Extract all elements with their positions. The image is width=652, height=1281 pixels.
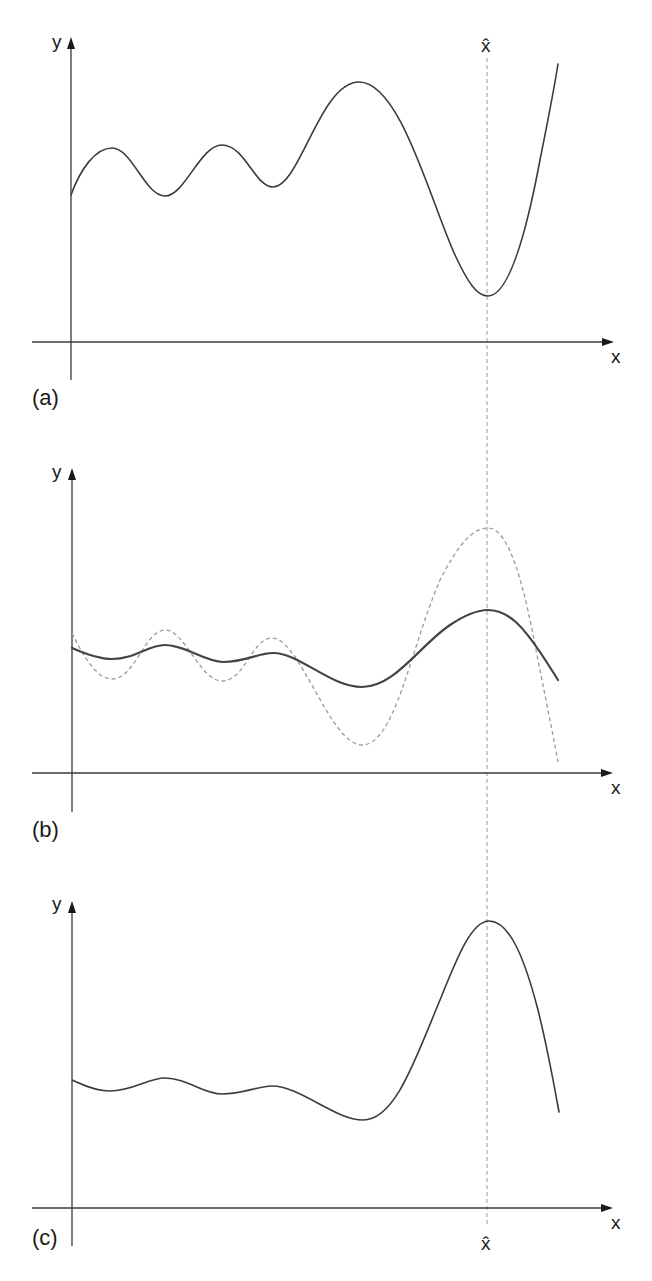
panel-label: (a)	[32, 385, 59, 410]
panel-c: y x x̂ (c)	[32, 893, 621, 1254]
x-axis-label: x	[611, 777, 621, 798]
three-panel-diagram: y x x̂ (a) y x (b) y x x̂ (c)	[0, 0, 652, 1281]
inverted-function-dashed-curve	[72, 528, 558, 762]
original-function-curve	[71, 64, 558, 296]
y-axis-arrow-icon	[68, 468, 76, 480]
y-axis-label: y	[52, 893, 62, 914]
y-axis-label: y	[52, 461, 62, 482]
y-axis-arrow-icon	[67, 37, 75, 49]
x-axis-arrow-icon	[601, 769, 613, 777]
x-hat-label: x̂	[481, 1233, 491, 1254]
panel-a: y x x̂ (a)	[32, 31, 621, 410]
transformed-function-curve	[72, 921, 559, 1120]
panel-label: (c)	[32, 1225, 58, 1250]
x-axis-label: x	[611, 346, 621, 367]
x-axis-arrow-icon	[602, 338, 614, 346]
x-hat-label: x̂	[481, 35, 491, 56]
y-axis-arrow-icon	[68, 901, 76, 913]
x-axis-label: x	[611, 1212, 621, 1233]
x-axis-arrow-icon	[601, 1204, 613, 1212]
y-axis-label: y	[52, 31, 62, 52]
panel-label: (b)	[32, 817, 59, 842]
smoothed-function-curve	[72, 610, 558, 687]
panel-b: y x (b)	[32, 461, 621, 842]
